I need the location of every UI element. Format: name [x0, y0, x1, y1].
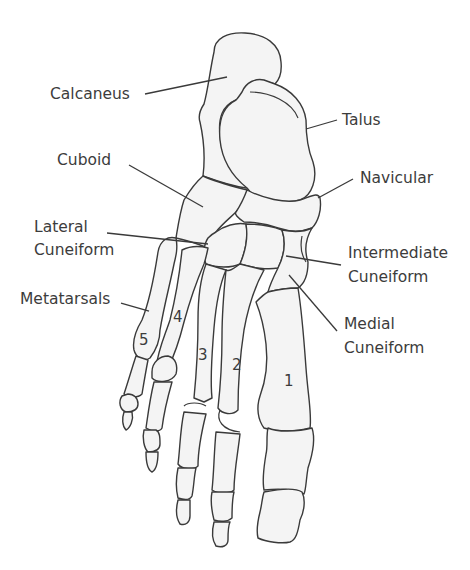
navicular-leader: [318, 179, 353, 198]
talus-leader: [306, 120, 337, 129]
toe-5-proximal-phalanx: [124, 356, 148, 397]
toe-3-joint: [184, 403, 206, 406]
toe-4-middle-phalanx: [143, 430, 160, 452]
toe-2-distal-phalanx: [213, 522, 230, 547]
toe-3-proximal-phalanx: [178, 412, 206, 469]
metatarsals-leader: [121, 303, 149, 311]
metatarsal-number-4: 4: [173, 308, 183, 326]
toe-3-middle-phalanx: [177, 468, 197, 499]
toe-4-metatarsal-head: [152, 356, 177, 381]
metatarsal-number-2: 2: [232, 356, 242, 374]
label-metatarsals: Metatarsals: [20, 290, 110, 308]
metatarsal-number-1: 1: [284, 372, 294, 390]
toe-5-middle-phalanx: [120, 394, 138, 412]
toe-4-proximal-phalanx: [146, 382, 172, 431]
label-calcaneus: Calcaneus: [50, 85, 130, 103]
label-lateral-cuneiform-line2: Cuneiform: [34, 241, 114, 259]
intermediate-cuneiform-bone: [240, 224, 284, 269]
metatarsal-number-5: 5: [139, 331, 149, 349]
toe-2-proximal-phalanx: [212, 432, 240, 493]
metatarsal-number-3: 3: [198, 346, 208, 364]
metatarsal-1-bone: [256, 288, 311, 431]
toe-1-distal-phalanx: [257, 489, 304, 543]
toe-1-proximal-phalanx: [263, 428, 313, 494]
toe-4-distal-phalanx: [146, 452, 158, 472]
metatarsal-2-bone: [218, 264, 264, 414]
cuboid-leader: [129, 165, 203, 207]
foot-bones-diagram: Calcaneus Talus Cuboid Navicular Lateral…: [0, 0, 470, 570]
label-intermediate-cuneiform-line2: Cuneiform: [348, 268, 428, 286]
label-medial-cuneiform-line2: Cuneiform: [344, 339, 424, 357]
label-navicular: Navicular: [360, 169, 434, 187]
label-talus: Talus: [341, 111, 381, 129]
label-lateral-cuneiform-line1: Lateral: [34, 218, 88, 236]
toe-3-distal-phalanx: [177, 500, 190, 525]
label-cuboid: Cuboid: [57, 151, 111, 169]
label-intermediate-cuneiform-line1: Intermediate: [348, 244, 448, 262]
toe-2-middle-phalanx: [211, 492, 234, 521]
toe-5-distal-phalanx: [123, 412, 133, 430]
label-medial-cuneiform-line1: Medial: [344, 315, 395, 333]
